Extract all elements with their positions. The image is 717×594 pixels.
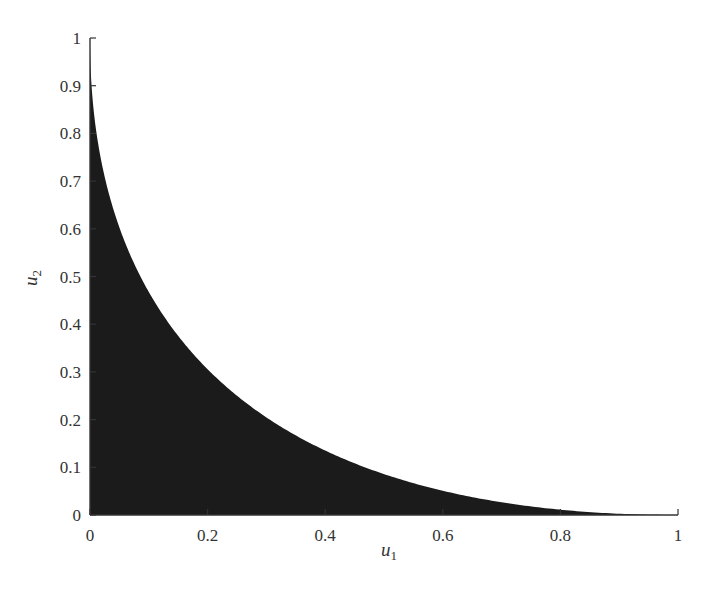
y-tick-label: 0.7 <box>60 172 82 191</box>
y-tick-label: 0.5 <box>60 268 81 287</box>
x-axis-label-subscript: 1 <box>391 548 398 563</box>
plot-area <box>90 38 678 515</box>
y-tick-label: 0.4 <box>60 315 82 334</box>
y-axis-label-subscript: 2 <box>29 270 44 277</box>
y-axis-label: u2 <box>20 270 44 286</box>
x-tick-label: 0.4 <box>315 526 337 545</box>
y-axis-label-base: u <box>20 277 41 287</box>
y-tick-label: 0.8 <box>60 124 81 143</box>
y-tick-label: 0.1 <box>60 458 81 477</box>
x-axis-label: u1 <box>381 539 397 563</box>
x-tick-label: 0 <box>86 526 95 545</box>
y-tick-label: 1 <box>73 29 82 48</box>
x-tick-label: 0.6 <box>432 526 453 545</box>
y-tick-label: 0.6 <box>60 220 81 239</box>
filled-region <box>90 38 678 515</box>
y-tick-label: 0.3 <box>60 363 81 382</box>
x-axis-label-base: u <box>381 539 391 560</box>
y-tick-label: 0 <box>73 506 82 525</box>
x-tick-label: 0.2 <box>197 526 218 545</box>
x-tick-label: 0.8 <box>550 526 571 545</box>
y-tick-label: 0.2 <box>60 411 81 430</box>
x-tick-label: 1 <box>674 526 683 545</box>
chart: 00.20.40.60.81 00.10.20.30.40.50.60.70.8… <box>0 0 717 594</box>
y-tick-label: 0.9 <box>60 77 81 96</box>
